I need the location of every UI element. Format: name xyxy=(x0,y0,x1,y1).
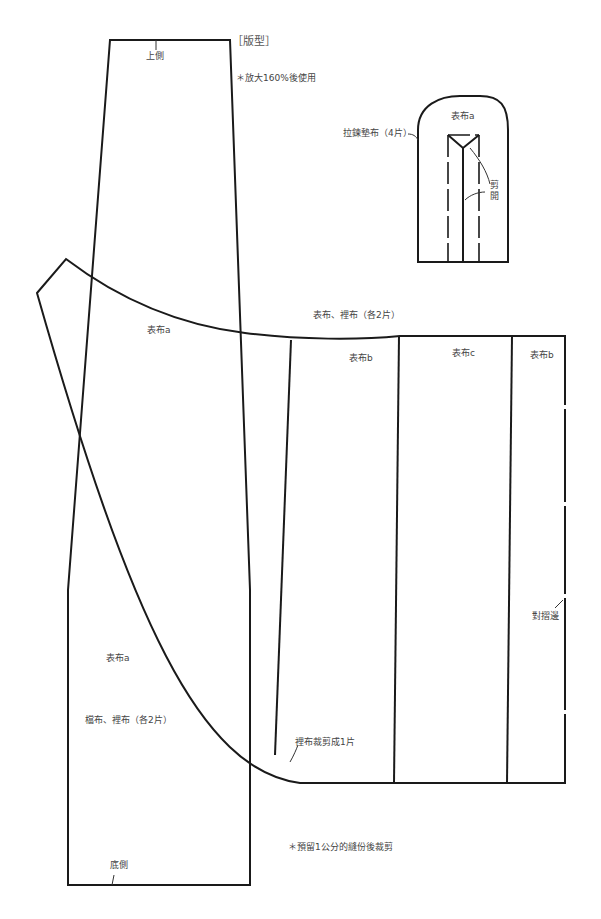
cut-leader-bottom xyxy=(465,192,485,200)
bottom-side-leader xyxy=(112,875,114,885)
enlarge-note: ＊放大160%後使用 xyxy=(236,74,316,83)
pattern-diagram xyxy=(0,0,601,919)
outer-a-upper-label: 表布a xyxy=(147,326,171,335)
fold-gap xyxy=(562,502,568,506)
fold-edge-leader xyxy=(555,600,563,608)
panel-divider-c-b xyxy=(507,336,512,783)
fold-edge-label: 對摺邊 xyxy=(532,612,559,621)
main-body-outline xyxy=(37,259,565,783)
fold-gap xyxy=(562,594,568,598)
seam-allowance-note: ＊預留1公分的縫份後裁剪 xyxy=(288,843,393,852)
zipper-v-cut xyxy=(448,135,479,148)
outer-b-left-label: 表布b xyxy=(349,354,373,363)
bottom-side-label: 底側 xyxy=(110,861,128,870)
panel-divider-a-b xyxy=(275,340,291,755)
cut-open-label-1: 剪 xyxy=(490,181,499,190)
outer-lining-each2-label: 表布、裡布（各2片） xyxy=(313,311,400,320)
cut-open-label-2: 開 xyxy=(490,192,499,201)
outer-a-lower-label: 表布a xyxy=(106,654,130,663)
page-title: ［版型］ xyxy=(232,36,276,47)
top-side-label: 上側 xyxy=(146,52,164,61)
facing-piece-label: 表布a xyxy=(451,112,475,121)
cut-leader-top xyxy=(470,148,490,184)
panel-divider-b-c xyxy=(394,336,399,783)
lining-cut-one-label: 裡布裁剪成1片 xyxy=(295,738,355,747)
strap-piece-outline xyxy=(68,40,250,885)
outer-c-label: 表布c xyxy=(452,349,475,358)
zipper-facing-label: 拉鍊墊布（4片） xyxy=(343,129,412,138)
fold-gap xyxy=(562,710,568,714)
lining-leader xyxy=(290,745,298,762)
gusset-lining-label: 檔布、裡布（各2片） xyxy=(85,716,172,725)
outer-b-right-label: 表布b xyxy=(530,351,554,360)
fold-gap xyxy=(562,405,568,409)
